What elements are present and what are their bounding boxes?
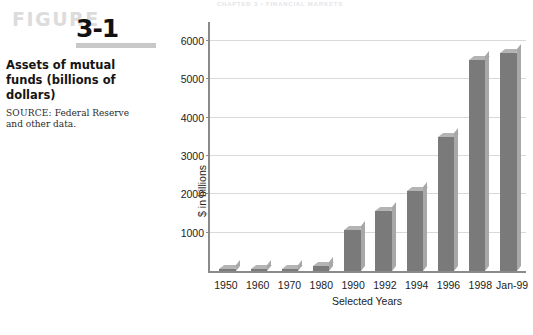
- figure-rule-divider: [76, 43, 156, 48]
- bar[interactable]: [407, 191, 423, 271]
- bar[interactable]: [469, 60, 485, 271]
- plot-area: 100020003000400050006000: [208, 22, 526, 273]
- bar-side-face: [298, 260, 302, 271]
- bar[interactable]: [251, 269, 267, 271]
- running-head: CHAPTER 3 • FINANCIAL MARKETS: [150, 1, 410, 7]
- bar[interactable]: [438, 137, 454, 271]
- bar[interactable]: [282, 269, 298, 271]
- bar-side-face: [517, 44, 521, 271]
- x-tick-label: 1998: [469, 279, 492, 291]
- x-tick-label: 1950: [214, 279, 237, 291]
- bar[interactable]: [219, 269, 235, 271]
- x-tick-label: 1996: [437, 279, 460, 291]
- figure-caption-block: FIGURE 3-1 Assets of mutual funds (billi…: [6, 10, 158, 130]
- y-tick-mark: [206, 155, 210, 156]
- bar[interactable]: [375, 211, 391, 271]
- bar-side-face: [329, 257, 333, 271]
- bar-side-face: [392, 202, 396, 271]
- y-tick-label: 1000: [181, 227, 204, 239]
- x-tick-label: 1994: [405, 279, 428, 291]
- figure-caption-title: Assets of mutual funds (billions of doll…: [6, 58, 134, 103]
- bar-slot: [282, 22, 298, 271]
- figure-number-row: 3-1: [6, 15, 158, 45]
- x-tick-label: 1970: [278, 279, 301, 291]
- bar-slot: [375, 22, 391, 271]
- x-tick-label: Jan-99: [496, 279, 528, 291]
- bar-slot: [500, 22, 516, 271]
- bar[interactable]: [313, 266, 329, 271]
- y-tick-mark: [206, 117, 210, 118]
- bar-side-face: [454, 128, 458, 271]
- bar-side-face: [423, 181, 427, 271]
- bar-slot: [438, 22, 454, 271]
- bar-side-face: [361, 221, 365, 271]
- bar[interactable]: [500, 53, 516, 271]
- bar-slot: [344, 22, 360, 271]
- y-tick-mark: [206, 40, 210, 41]
- x-tick-label: 1992: [373, 279, 396, 291]
- source-label: SOURCE:: [6, 108, 52, 118]
- y-tick-label: 3000: [181, 150, 204, 162]
- x-tick-label: 1960: [246, 279, 269, 291]
- x-tick-label: 1990: [341, 279, 364, 291]
- bar-slot: [219, 22, 235, 271]
- bar-slot: [407, 22, 423, 271]
- y-tick-mark: [206, 232, 210, 233]
- bar-side-face: [236, 260, 240, 271]
- bar-chart: 100020003000400050006000 $ in billions 1…: [160, 14, 528, 326]
- bar-slot: [469, 22, 485, 271]
- y-tick-label: 6000: [181, 35, 204, 47]
- y-tick-mark: [206, 78, 210, 79]
- y-tick-label: 5000: [181, 73, 204, 85]
- plot: 100020003000400050006000 $ in billions 1…: [208, 22, 526, 307]
- y-tick-label: 4000: [181, 112, 204, 124]
- bar-side-face: [485, 51, 489, 271]
- bar-slot: [313, 22, 329, 271]
- bar-side-face: [267, 260, 271, 271]
- x-axis-title: Selected Years: [208, 295, 526, 307]
- x-tick-label: 1980: [310, 279, 333, 291]
- bar-group: [212, 22, 524, 271]
- figure-number: 3-1: [76, 15, 118, 42]
- figure-source-note: SOURCE: Federal Reserve and other data.: [6, 108, 146, 130]
- bar[interactable]: [344, 230, 360, 271]
- bar-slot: [251, 22, 267, 271]
- y-axis-title: $ in billions: [196, 165, 208, 217]
